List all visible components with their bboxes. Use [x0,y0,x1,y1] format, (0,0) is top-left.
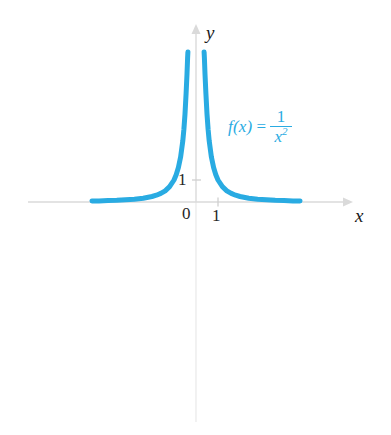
plot-canvas [0,0,391,435]
x-tick-label-one: 1 [212,207,221,224]
function-graph-figure: y x 1 0 1 f(x) = 1 x2 [0,0,391,435]
y-axis-label: y [206,23,214,42]
formula-denominator-exponent: 2 [282,125,288,137]
x-axis-arrowhead [343,198,353,207]
y-tick-label-one: 1 [178,171,187,188]
y-axis-arrowhead [192,24,201,34]
formula-numerator: 1 [273,108,290,126]
formula-denominator-base: x [274,127,282,146]
formula-equals-sign: = [256,118,266,135]
x-axis-label: x [355,206,363,225]
function-formula-annotation: f(x) = 1 x2 [228,108,292,145]
formula-function-name: f(x) [228,118,252,135]
formula-fraction: 1 x2 [270,108,292,145]
origin-label: 0 [182,205,191,222]
formula-denominator: x2 [270,127,291,145]
curve-left-branch [92,52,188,201]
